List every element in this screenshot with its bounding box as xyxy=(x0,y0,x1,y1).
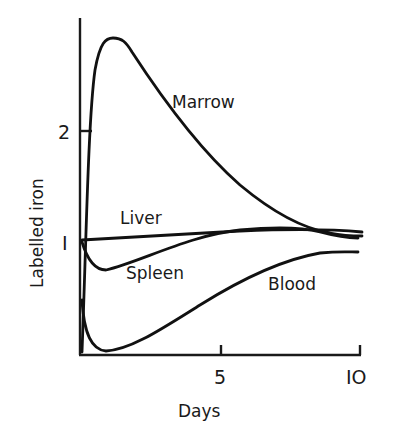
blood-label: Blood xyxy=(268,274,316,294)
marrow-curve xyxy=(82,38,362,352)
x-axis-label: Days xyxy=(178,401,221,421)
liver-label: Liver xyxy=(120,208,162,228)
spleen-label: Spleen xyxy=(126,263,184,283)
x-tick-label-5: 5 xyxy=(214,366,226,388)
x-tick-label-10: IO xyxy=(346,366,367,388)
y-axis-label: Labelled iron xyxy=(27,178,47,288)
chart: 2 I 5 IO Labelled iron Days Marrow Liver… xyxy=(0,0,396,438)
marrow-label: Marrow xyxy=(172,92,235,112)
spleen-curve xyxy=(82,228,358,270)
blood-curve xyxy=(82,252,358,351)
y-tick-label-1: I xyxy=(62,232,68,254)
y-tick-label-2: 2 xyxy=(58,121,70,143)
